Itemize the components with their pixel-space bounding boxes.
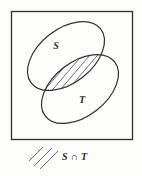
intersection-hatch-region <box>11 11 133 140</box>
venn-diagram-figure: S T S ∩ T <box>0 0 142 176</box>
legend-hatch-swatch <box>29 147 58 169</box>
set-ellipse-t <box>29 41 132 138</box>
set-label-s: S <box>53 40 59 51</box>
figure-canvas: S T S ∩ T <box>0 0 142 176</box>
set-label-t: T <box>79 94 86 105</box>
set-ellipse-s <box>15 8 118 105</box>
legend-label: S ∩ T <box>62 151 88 162</box>
